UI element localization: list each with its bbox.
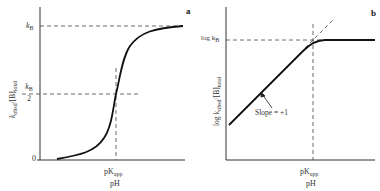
panel-a-ytick-zero: 0 xyxy=(32,155,36,163)
panel-b-slope-annotation: Slope = +1 xyxy=(255,109,288,117)
panel-b-axes xyxy=(226,7,375,160)
ylabel-a-sub2: total xyxy=(12,81,18,92)
panel-a-ylabel: kobsd/[B]total xyxy=(8,81,17,118)
panel-b-log-curve xyxy=(229,40,375,125)
ylabel-b-sub1: obsd xyxy=(216,99,222,110)
panel-b-xlabel: pH xyxy=(306,180,316,188)
xtick-a-main: pK xyxy=(104,167,114,176)
ytick-logkb-sub: B xyxy=(215,37,219,43)
panel-b-reference-lines xyxy=(226,19,334,160)
panel-b-xtick-pkapp: pKapp xyxy=(300,168,318,176)
ytick-half-numerator: kB xyxy=(22,82,36,92)
panel-a-xlabel: pH xyxy=(110,180,120,188)
xtick-b-main: pK xyxy=(300,167,310,176)
ylabel-b-main: log k xyxy=(212,111,221,126)
ylabel-b-mid: /[B] xyxy=(212,87,221,99)
panel-a-sigmoid-curve xyxy=(57,26,183,159)
panel-a-xtick-pkapp: pKapp xyxy=(104,168,122,176)
slope-arrow-icon xyxy=(261,92,272,108)
panel-a-axes xyxy=(37,7,185,160)
ylabel-b-sub2: total xyxy=(216,77,222,88)
ytick-half-num-sub: B xyxy=(29,86,33,92)
ylabel-a-mid: /[B] xyxy=(8,91,17,103)
ytick-kb-sub: B xyxy=(30,25,34,31)
panel-b-ytick-logkb: log kB xyxy=(201,35,219,42)
ylabel-a-sub1: obsd xyxy=(12,103,18,114)
panel-b-letter: b xyxy=(371,8,376,18)
ytick-logkb-main: log k xyxy=(201,34,215,42)
panel-b-ylabel: log kobsd/[B]total xyxy=(212,77,221,126)
figure-canvas xyxy=(0,0,380,191)
ylabel-a-main: k xyxy=(8,115,17,118)
ytick-half-denominator: 2 xyxy=(22,94,36,103)
panel-a-ytick-half: kB 2 xyxy=(22,82,36,103)
panel-a-ytick-kb: kB xyxy=(26,22,34,30)
panel-a-letter: a xyxy=(186,6,191,16)
xtick-b-sub: app xyxy=(310,171,319,177)
xtick-a-sub: app xyxy=(114,171,123,177)
